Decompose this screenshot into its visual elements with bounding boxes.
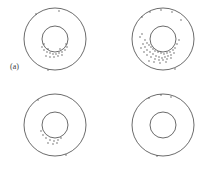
inner-circle — [42, 112, 68, 138]
inner-circle — [42, 26, 68, 52]
scatter-marker — [49, 56, 50, 57]
figure-container: (a) (b) (c) (d) — [0, 0, 217, 172]
scatter-marker — [55, 53, 56, 54]
panel-b-plot — [109, 0, 217, 86]
scatter-marker — [37, 99, 38, 100]
scatter-marker — [144, 39, 145, 40]
scatter-marker — [141, 16, 142, 17]
scatter-marker — [58, 10, 59, 11]
scatter-marker — [165, 61, 166, 62]
scatter-marker — [173, 52, 174, 53]
scatter-marker — [172, 49, 173, 50]
scatter-marker — [146, 49, 147, 50]
scatter-marker — [162, 59, 163, 60]
panel-c: (c) — [0, 86, 108, 172]
scatter-marker — [166, 58, 167, 59]
scatter-marker — [53, 56, 54, 57]
scatter-marker — [61, 51, 62, 52]
scatter-marker — [146, 42, 147, 43]
scatter-marker — [61, 54, 62, 55]
scatter-marker — [154, 58, 155, 59]
scatter-marker — [153, 61, 154, 62]
scatter-marker — [64, 49, 65, 50]
scatter-marker — [45, 137, 46, 138]
outer-circle — [24, 94, 86, 156]
scatter-marker — [170, 54, 171, 55]
scatter-marker — [42, 134, 43, 135]
scatter-marker — [49, 139, 50, 140]
panel-d: (d) — [109, 86, 217, 172]
scatter-marker — [41, 46, 42, 47]
scatter-marker — [52, 143, 53, 144]
scatter-marker — [160, 9, 161, 10]
scatter-marker — [144, 46, 145, 47]
scatter-marker — [142, 43, 143, 44]
outer-circle — [132, 94, 194, 156]
scatter-marker — [174, 68, 175, 69]
scatter-marker — [146, 54, 147, 55]
scatter-marker — [47, 69, 48, 70]
scatter-marker — [160, 94, 161, 95]
scatter-marker — [148, 97, 149, 98]
scatter-marker — [178, 39, 179, 40]
panel-a: (a) — [0, 0, 108, 86]
scatter-marker — [139, 36, 140, 37]
scatter-marker — [164, 56, 165, 57]
scatter-marker — [157, 51, 158, 52]
scatter-marker — [160, 52, 161, 53]
scatter-marker — [159, 62, 160, 63]
scatter-marker — [47, 48, 48, 49]
scatter-marker — [57, 139, 58, 140]
outer-circle — [24, 8, 86, 70]
scatter-marker — [45, 55, 46, 56]
scatter-marker — [163, 53, 164, 54]
scatter-marker — [155, 55, 156, 56]
scatter-marker — [149, 51, 150, 52]
scatter-marker — [43, 43, 44, 44]
scatter-marker — [148, 44, 149, 45]
scatter-marker — [53, 140, 54, 141]
scatter-marker — [180, 19, 181, 20]
scatter-marker — [148, 60, 149, 61]
panel-d-plot — [109, 86, 217, 172]
panel-b: (b) — [109, 0, 217, 86]
scatter-marker — [141, 33, 142, 34]
scatter-marker — [66, 46, 67, 47]
scatter-marker — [60, 137, 61, 138]
scatter-marker — [158, 59, 159, 60]
scatter-marker — [140, 47, 141, 48]
scatter-marker — [150, 46, 151, 47]
scatter-marker — [176, 43, 177, 44]
scatter-marker — [56, 142, 57, 143]
scatter-marker — [170, 96, 171, 97]
scatter-marker — [149, 11, 150, 12]
scatter-marker — [170, 57, 171, 58]
scatter-marker — [152, 53, 153, 54]
scatter-marker — [161, 57, 162, 58]
scatter-marker — [58, 52, 59, 53]
scatter-marker — [65, 154, 66, 155]
scatter-marker — [46, 51, 47, 52]
scatter-marker — [171, 11, 172, 12]
scatter-marker — [52, 53, 53, 54]
outer-circle — [132, 8, 194, 70]
scatter-marker — [47, 142, 48, 143]
panel-label-a: (a) — [10, 63, 19, 71]
scatter-marker — [152, 48, 153, 49]
scatter-marker — [35, 13, 36, 14]
scatter-marker — [154, 50, 155, 51]
scatter-marker — [65, 43, 66, 44]
scatter-marker — [49, 52, 50, 53]
panel-c-plot — [0, 86, 108, 172]
scatter-marker — [166, 52, 167, 53]
scatter-marker — [158, 56, 159, 57]
scatter-marker — [150, 56, 151, 57]
scatter-marker — [143, 51, 144, 52]
scatter-marker — [174, 47, 175, 48]
inner-circle — [150, 26, 176, 52]
scatter-marker — [57, 55, 58, 56]
scatter-marker — [167, 55, 168, 56]
scatter-marker — [59, 48, 60, 49]
scatter-marker — [169, 51, 170, 52]
inner-circle — [150, 112, 176, 138]
